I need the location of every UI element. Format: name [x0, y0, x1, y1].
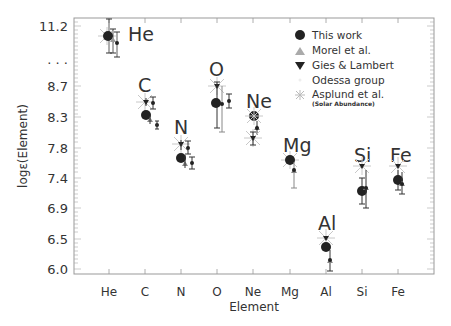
xtick: C	[141, 285, 149, 299]
ytick: 7.4	[47, 171, 68, 186]
legend-label: Asplund et al.	[312, 88, 384, 100]
xtick: Ne	[245, 285, 261, 299]
legend-label: Odessa group	[312, 74, 385, 86]
element-label: C	[138, 74, 151, 96]
x-tick-labels: He C N O Ne Mg Al Si Fe	[101, 285, 405, 299]
xtick: Si	[357, 285, 368, 299]
xtick: Al	[320, 285, 332, 299]
plot-frame	[74, 18, 434, 274]
legend-label: This work	[311, 29, 363, 41]
legend-triangle-down-icon	[295, 62, 305, 70]
legend: This work Morel et al. Gies & Lambert Od…	[295, 29, 394, 107]
legend-triangle-up-icon	[295, 47, 305, 55]
xtick: Mg	[281, 285, 299, 299]
legend-dot-icon	[299, 79, 302, 82]
element-label: O	[209, 58, 224, 80]
y-axis-title: logε(Element)	[16, 104, 30, 188]
legend-label: Gies & Lambert	[312, 59, 394, 71]
element-label: Ne	[246, 90, 272, 112]
ytick: 11.2	[39, 19, 68, 34]
element-label: Mg	[283, 134, 311, 156]
ytick: 6.5	[47, 232, 68, 247]
xtick: Fe	[391, 285, 405, 299]
xtick: N	[177, 285, 186, 299]
element-label: Al	[318, 212, 336, 234]
ytick: 8.3	[47, 110, 68, 125]
element-label: N	[174, 116, 188, 138]
element-label: Si	[354, 144, 371, 166]
abundance-chart: 11.2 . . . 8.7 8.3 7.8 7.4 6.9 6.5 6.0 H…	[0, 0, 451, 326]
xtick: O	[212, 285, 221, 299]
element-label: He	[128, 23, 154, 45]
ytick: . . .	[47, 52, 68, 67]
legend-asterisk-icon	[295, 90, 305, 100]
ytick: 7.8	[47, 141, 68, 156]
xtick: He	[101, 285, 117, 299]
x-axis-title: Element	[229, 300, 279, 314]
legend-sublabel: (Solar Abundance)	[312, 100, 375, 107]
ytick: 6.9	[47, 201, 68, 216]
legend-circle-icon	[295, 30, 305, 40]
ytick: 6.0	[47, 262, 68, 277]
y-tick-labels: 11.2 . . . 8.7 8.3 7.8 7.4 6.9 6.5 6.0	[39, 19, 68, 277]
legend-label: Morel et al.	[312, 44, 371, 56]
ytick: 8.7	[47, 79, 68, 94]
